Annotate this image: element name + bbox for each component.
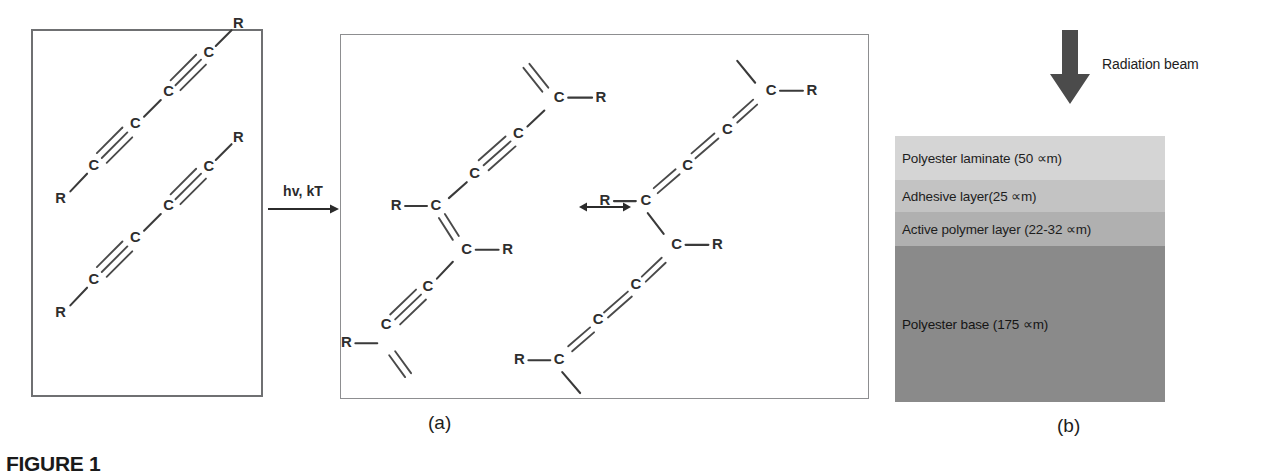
figure-caption: FIGURE 1	[6, 452, 100, 475]
atom-label: R	[55, 304, 66, 320]
bond-single-bot	[144, 214, 161, 231]
bond-c-r-top	[216, 30, 232, 46]
bond-double-up2-b	[733, 100, 753, 118]
layer-polyester-base: Polyester base (175 ∝m)	[895, 246, 1165, 402]
atom-label: C	[130, 115, 141, 131]
bond-double-up4-a	[658, 174, 680, 193]
polymer-structure-svg: C R C C C R C R C C R	[341, 35, 868, 398]
atom-label: R	[596, 89, 607, 105]
figure-caption-label: FIGURE 1	[6, 452, 100, 475]
atom-label: C	[554, 351, 565, 367]
atom-label: R	[514, 351, 525, 367]
bond-double-up2-a	[737, 105, 757, 123]
layer-label: Adhesive layer(25 ∝m)	[895, 188, 1036, 204]
layer-label: Active polymer layer (22-32 ∝m)	[895, 221, 1091, 237]
bond-r-c-top1	[70, 174, 87, 192]
atom-label: C	[630, 276, 641, 292]
radiation-beam-group: Radiation beam	[1046, 28, 1246, 110]
atom-label: C	[722, 121, 733, 137]
atom-label: C	[381, 316, 392, 332]
double-headed-arrow-icon	[578, 198, 632, 216]
sub-caption-a: (a)	[428, 412, 451, 434]
layer-label: Polyester laminate (50 ∝m)	[895, 150, 1062, 166]
bond-double-up4-b	[654, 169, 676, 188]
bond-double-up3-a	[695, 138, 718, 158]
polymer-panel: C R C C C R C R C C R	[340, 34, 869, 399]
bond-single-upper	[527, 111, 544, 127]
atom-label: R	[233, 129, 244, 145]
atom-label: C	[89, 157, 100, 173]
bond-single-lower	[437, 262, 453, 279]
atom-label: C	[204, 158, 215, 174]
bond-c-r-bot	[216, 144, 232, 160]
bond-double-dn2-a	[642, 258, 662, 277]
monomer-structure-svg: R C C C C R R C C C C R	[33, 31, 261, 395]
atom-label: R	[341, 334, 352, 350]
atom-label: R	[233, 15, 244, 31]
sub-caption-b: (b)	[1057, 415, 1080, 437]
bond-r-c-bot1	[70, 288, 87, 306]
atom-label: C	[469, 165, 480, 181]
monomer-panel: R C C C C R R C C C C R	[31, 29, 263, 397]
atom-label: R	[391, 197, 402, 213]
atom-label: C	[461, 241, 472, 257]
atom-label: C	[163, 197, 174, 213]
layer-active-polymer: Active polymer layer (22-32 ∝m)	[895, 212, 1165, 246]
bond-chainend-upper-a	[523, 68, 542, 92]
bond-chainend-lower-b	[395, 351, 411, 373]
reaction-arrow-group: hv, kT	[266, 183, 340, 223]
atom-label: R	[502, 241, 513, 257]
layer-stack: Polyester laminate (50 ∝m) Adhesive laye…	[895, 136, 1165, 402]
atom-label: R	[806, 82, 817, 98]
bond-double-up3-b	[692, 133, 715, 153]
bond-double-dn2-b	[646, 263, 666, 282]
bond-chainend-lower-a	[389, 355, 405, 377]
layer-polyester-laminate: Polyester laminate (50 ∝m)	[895, 136, 1165, 180]
atom-label: C	[593, 311, 604, 327]
atom-label: C	[640, 192, 651, 208]
bond-chainend-upper-b	[529, 64, 548, 88]
atom-label: C	[89, 271, 100, 287]
layer-adhesive: Adhesive layer(25 ∝m)	[895, 180, 1165, 212]
bond-double-mid-b	[445, 214, 459, 236]
atom-label: R	[55, 190, 66, 206]
figure-root: R C C C C R R C C C C R hv, kT	[0, 0, 1265, 475]
down-arrow-icon	[1046, 28, 1094, 106]
right-arrow-icon	[266, 201, 340, 217]
bond-double-dn4-a	[568, 327, 590, 346]
bond-single-up2	[449, 182, 467, 198]
bond-single-mid2	[648, 213, 664, 234]
bond-chainend-lower2	[562, 372, 580, 393]
atom-label: C	[423, 278, 434, 294]
radiation-beam-label: Radiation beam	[1102, 56, 1199, 72]
atom-label: C	[682, 157, 693, 173]
layer-label: Polyester base (175 ∝m)	[895, 316, 1048, 332]
atom-label: C	[431, 197, 442, 213]
atom-label: C	[130, 229, 141, 245]
atom-label: C	[671, 236, 682, 252]
bond-double-dn4-b	[572, 332, 594, 351]
atom-label: C	[554, 89, 565, 105]
atom-label: C	[513, 125, 524, 141]
atom-label: R	[712, 236, 723, 252]
reaction-condition-label: hv, kT	[266, 183, 340, 199]
bond-double-mid-a	[439, 218, 453, 240]
bond-single-top	[144, 100, 161, 117]
bond-r-chainend-upper2	[737, 61, 755, 83]
atom-label: C	[766, 82, 777, 98]
atom-label: C	[204, 44, 215, 60]
atom-label: C	[163, 83, 174, 99]
